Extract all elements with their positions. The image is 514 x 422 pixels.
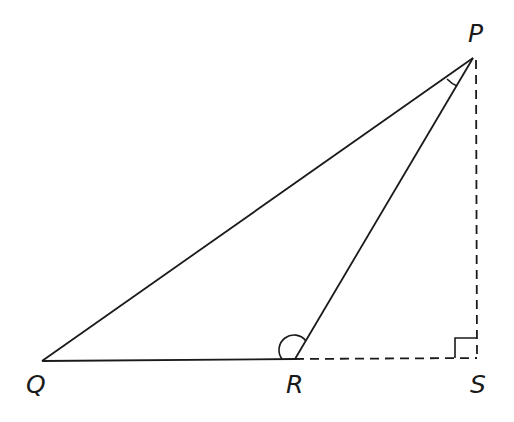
triangle-diagram: P Q R S — [0, 0, 514, 422]
label-P: P — [468, 19, 484, 48]
right-angle-mark-S — [455, 338, 476, 358]
segment-QR — [42, 359, 295, 361]
segment-PS-dashed — [476, 60, 477, 358]
angle-mark-P — [447, 79, 457, 86]
label-S: S — [470, 370, 486, 399]
label-R: R — [286, 370, 303, 399]
label-Q: Q — [26, 370, 46, 399]
segment-PQ — [42, 58, 473, 361]
segment-RP — [295, 58, 473, 359]
segment-RS-dashed — [295, 358, 477, 359]
